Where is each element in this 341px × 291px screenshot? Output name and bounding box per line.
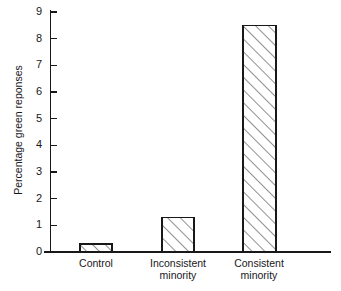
y-tick-label-7: 7 [36, 58, 42, 70]
bar-group-inconsistent-minority [162, 217, 194, 252]
x-category-label-inconsistent-minority-line1: Inconsistent [150, 257, 206, 269]
bar-group-consistent-minority [243, 25, 276, 252]
y-tick-label-0: 0 [36, 245, 42, 257]
x-category-label-consistent-minority-line2: minority [241, 269, 279, 281]
y-tick-label-2: 2 [36, 192, 42, 204]
x-category-label-inconsistent-minority-line2: minority [160, 269, 198, 281]
y-tick-label-6: 6 [36, 85, 42, 97]
bar-fill-inconsistent-minority [162, 217, 194, 252]
y-tick-label-8: 8 [36, 32, 42, 44]
y-tick-label-3: 3 [36, 165, 42, 177]
y-tick-label-9: 9 [36, 5, 42, 17]
y-tick-label-4: 4 [36, 138, 42, 150]
x-axis-category-labels: Control Inconsistent minority Consistent… [79, 257, 284, 281]
y-tick-label-5: 5 [36, 112, 42, 124]
bar-group-control [80, 244, 112, 252]
bar-fill-consistent-minority [243, 25, 276, 252]
y-tick-label-1: 1 [36, 218, 42, 230]
bar-chart-figure: Percentage green reponses 9 8 7 6 5 4 3 … [0, 0, 341, 291]
chart-canvas: Percentage green reponses 9 8 7 6 5 4 3 … [0, 0, 341, 291]
x-category-label-control: Control [79, 257, 113, 269]
y-axis-title: Percentage green reponses [12, 65, 24, 195]
bar-fill-control [80, 244, 112, 252]
x-category-label-consistent-minority-line1: Consistent [234, 257, 284, 269]
